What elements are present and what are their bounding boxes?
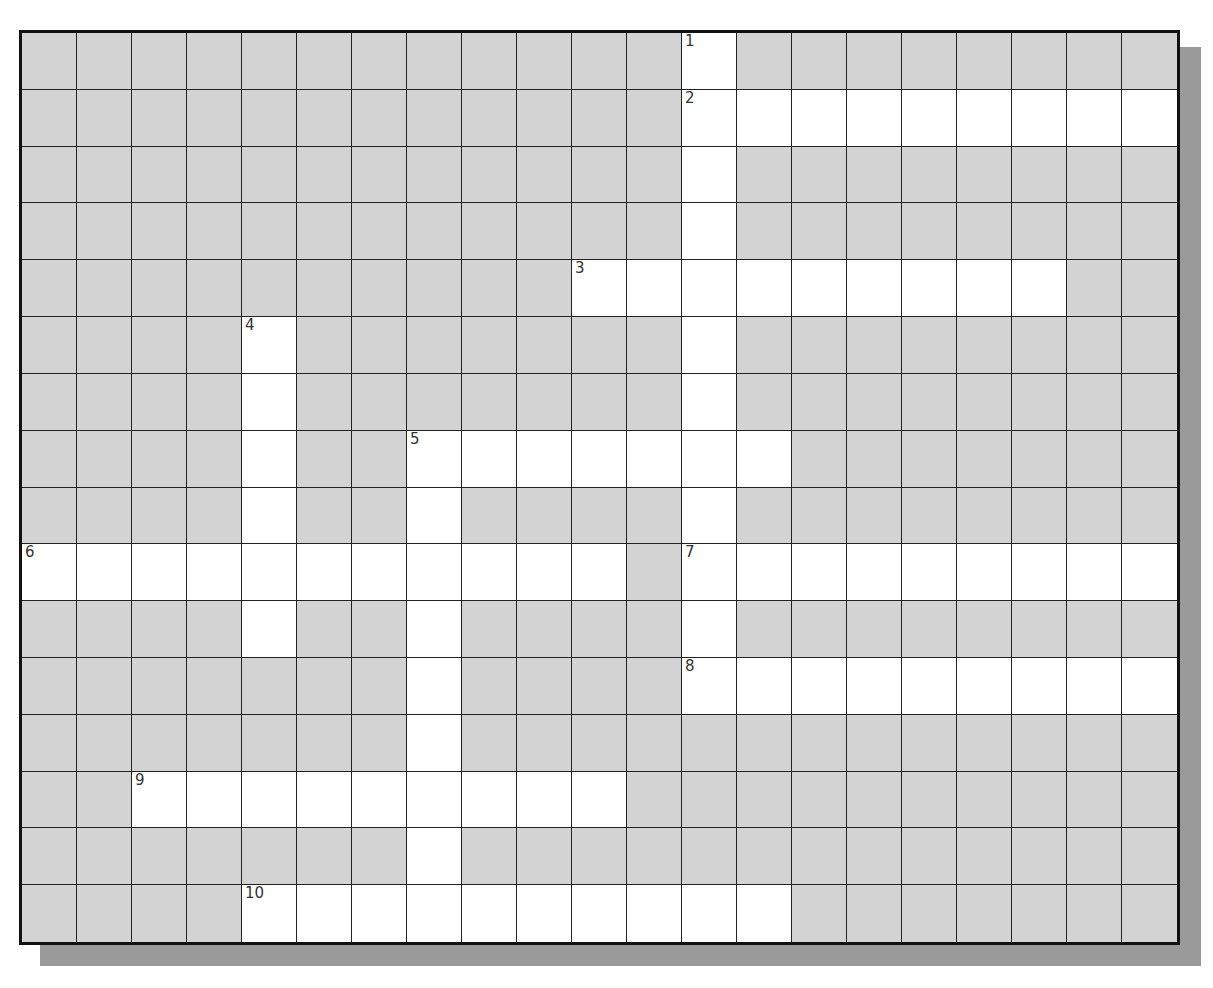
grid-cell-open[interactable]: 6 [22,544,77,601]
grid-cell-open[interactable]: 10 [242,885,297,942]
grid-cell-open[interactable] [627,431,682,488]
grid-cell-open[interactable]: 5 [407,431,462,488]
grid-cell-open[interactable] [242,488,297,545]
grid-cell-open[interactable] [297,544,352,601]
grid-cell-open[interactable] [187,544,242,601]
grid-cell-open[interactable] [682,147,737,204]
grid-cell-block [1012,601,1067,658]
grid-cell-block [517,658,572,715]
grid-cell-block [902,374,957,431]
grid-cell-block [1067,147,1122,204]
grid-cell-block [132,90,187,147]
grid-cell-open[interactable] [902,658,957,715]
grid-cell-open[interactable] [572,885,627,942]
grid-cell-block [957,317,1012,374]
grid-cell-open[interactable] [1012,90,1067,147]
grid-cell-open[interactable] [407,715,462,772]
grid-cell-open[interactable] [682,317,737,374]
grid-cell-open[interactable] [957,260,1012,317]
grid-cell-open[interactable] [242,431,297,488]
grid-cell-open[interactable] [902,260,957,317]
grid-cell-open[interactable] [1122,658,1177,715]
grid-cell-open[interactable] [1067,544,1122,601]
grid-cell-open[interactable] [297,885,352,942]
grid-cell-open[interactable] [242,374,297,431]
grid-cell-open[interactable] [737,885,792,942]
grid-cell-open[interactable] [132,544,187,601]
grid-cell-open[interactable] [352,772,407,829]
grid-cell-open[interactable] [1122,544,1177,601]
grid-cell-open[interactable] [517,885,572,942]
grid-cell-open[interactable] [682,374,737,431]
grid-cell-open[interactable]: 4 [242,317,297,374]
grid-cell-open[interactable] [902,90,957,147]
grid-cell-block [737,715,792,772]
grid-cell-open[interactable] [682,260,737,317]
grid-cell-block [242,147,297,204]
grid-cell-open[interactable] [1012,544,1067,601]
grid-cell-open[interactable] [1012,260,1067,317]
grid-cell-open[interactable] [682,601,737,658]
grid-cell-open[interactable] [187,772,242,829]
grid-cell-open[interactable] [1067,658,1122,715]
grid-cell-open[interactable] [462,431,517,488]
grid-cell-open[interactable] [1067,90,1122,147]
grid-cell-open[interactable] [407,601,462,658]
grid-cell-open[interactable] [242,772,297,829]
grid-cell-open[interactable] [737,658,792,715]
grid-cell-open[interactable] [1122,90,1177,147]
grid-cell-open[interactable] [682,203,737,260]
clue-number: 9 [135,773,145,788]
grid-cell-open[interactable] [792,544,847,601]
grid-cell-open[interactable] [462,544,517,601]
grid-cell-open[interactable]: 8 [682,658,737,715]
grid-cell-open[interactable] [407,488,462,545]
grid-cell-open[interactable]: 7 [682,544,737,601]
grid-cell-open[interactable] [462,772,517,829]
grid-cell-open[interactable] [627,260,682,317]
grid-cell-open[interactable] [462,885,517,942]
grid-cell-open[interactable] [737,90,792,147]
grid-cell-open[interactable] [847,658,902,715]
grid-cell-open[interactable] [242,544,297,601]
grid-cell-open[interactable] [242,601,297,658]
grid-cell-open[interactable] [407,828,462,885]
grid-cell-open[interactable] [297,772,352,829]
grid-cell-open[interactable] [737,260,792,317]
grid-cell-open[interactable] [847,260,902,317]
grid-cell-open[interactable] [957,90,1012,147]
grid-cell-open[interactable] [957,658,1012,715]
grid-cell-open[interactable] [572,431,627,488]
grid-cell-open[interactable] [627,885,682,942]
grid-cell-open[interactable] [572,544,627,601]
grid-cell-open[interactable] [737,431,792,488]
grid-cell-open[interactable] [792,260,847,317]
grid-cell-open[interactable]: 3 [572,260,627,317]
grid-cell-open[interactable] [682,488,737,545]
grid-cell-open[interactable] [957,544,1012,601]
grid-cell-open[interactable] [847,90,902,147]
grid-cell-open[interactable] [352,885,407,942]
grid-cell-open[interactable]: 2 [682,90,737,147]
grid-cell-open[interactable] [77,544,132,601]
grid-cell-open[interactable] [792,658,847,715]
grid-cell-open[interactable]: 1 [682,33,737,90]
grid-cell-open[interactable] [517,772,572,829]
grid-cell-open[interactable] [737,544,792,601]
grid-cell-open[interactable] [682,431,737,488]
grid-cell-open[interactable] [902,544,957,601]
grid-cell-open[interactable] [1012,658,1067,715]
grid-cell-open[interactable] [572,772,627,829]
grid-cell-open[interactable] [792,90,847,147]
grid-cell-open[interactable] [682,885,737,942]
grid-cell-open[interactable] [407,885,462,942]
grid-cell-open[interactable] [407,544,462,601]
grid-cell-open[interactable]: 9 [132,772,187,829]
grid-cell-block [352,33,407,90]
grid-cell-open[interactable] [517,544,572,601]
grid-cell-open[interactable] [407,658,462,715]
grid-cell-open[interactable] [517,431,572,488]
grid-cell-open[interactable] [847,544,902,601]
grid-cell-open[interactable] [352,544,407,601]
grid-cell-open[interactable] [407,772,462,829]
